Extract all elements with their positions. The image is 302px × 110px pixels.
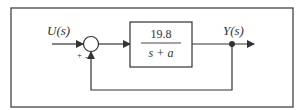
block-denominator: s + a bbox=[149, 46, 174, 60]
output-label: Y(s) bbox=[223, 23, 244, 38]
input-label: U(s) bbox=[47, 23, 70, 38]
block-numerator: 19.8 bbox=[151, 27, 172, 41]
block-diagram: U(s) + - 19.8 s + a Y(s) bbox=[0, 0, 302, 110]
plus-sign: + bbox=[77, 50, 82, 60]
minus-sign: - bbox=[85, 52, 88, 62]
summing-junction bbox=[84, 37, 99, 52]
diagram-canvas: U(s) + - 19.8 s + a Y(s) bbox=[0, 0, 302, 110]
